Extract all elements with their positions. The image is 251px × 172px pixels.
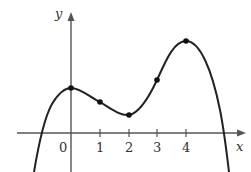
x-tick-label-3: 3 bbox=[153, 140, 161, 155]
point-x0 bbox=[68, 85, 74, 91]
chart-canvas: y x 0 1 2 3 4 bbox=[0, 0, 251, 172]
origin-label: 0 bbox=[59, 140, 67, 155]
data-points bbox=[68, 38, 189, 118]
point-x4 bbox=[183, 38, 189, 44]
x-tick-label-2: 2 bbox=[125, 140, 133, 155]
y-axis-arrow-icon bbox=[68, 12, 75, 21]
x-tick-label-4: 4 bbox=[182, 140, 190, 155]
y-axis-label: y bbox=[54, 6, 63, 21]
x-tick-label-1: 1 bbox=[96, 140, 104, 155]
x-axis-label: x bbox=[236, 139, 244, 154]
point-x1 bbox=[97, 99, 103, 105]
point-x3 bbox=[154, 77, 160, 83]
x-axis-arrow-icon bbox=[237, 130, 246, 137]
point-x2 bbox=[126, 112, 132, 118]
